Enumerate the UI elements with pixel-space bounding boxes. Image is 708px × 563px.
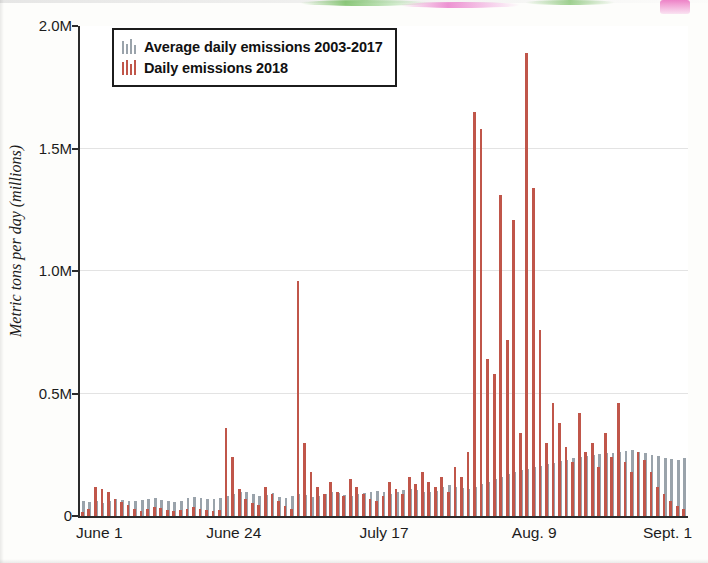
bar-daily-emissions-2018 xyxy=(617,403,620,516)
bar-daily-emissions-2018 xyxy=(643,460,646,516)
bar-daily-emissions-2018 xyxy=(558,423,561,516)
bar-average-daily-emissions xyxy=(683,458,686,516)
bar-daily-emissions-2018 xyxy=(355,487,358,516)
bar-daily-emissions-2018 xyxy=(408,477,411,516)
bar-daily-emissions-2018 xyxy=(532,188,535,516)
bar-daily-emissions-2018 xyxy=(578,413,581,516)
bar-daily-emissions-2018 xyxy=(362,494,365,516)
bar-daily-emissions-2018 xyxy=(336,492,339,517)
gridline xyxy=(80,148,688,149)
bar-daily-emissions-2018 xyxy=(519,433,522,516)
x-tick-label: Sept. 1 xyxy=(643,524,692,542)
bar-daily-emissions-2018 xyxy=(186,509,189,516)
bar-daily-emissions-2018 xyxy=(388,482,391,516)
bar-daily-emissions-2018 xyxy=(290,509,293,516)
y-axis-ticks: 00.5M1.0M1.5M2.0M xyxy=(0,0,72,563)
bar-daily-emissions-2018 xyxy=(87,509,90,516)
x-tick-label: Aug. 9 xyxy=(512,524,557,542)
bar-daily-emissions-2018 xyxy=(663,494,666,516)
bar-daily-emissions-2018 xyxy=(212,511,215,516)
bar-daily-emissions-2018 xyxy=(382,496,385,516)
bar-daily-emissions-2018 xyxy=(297,281,300,516)
bar-daily-emissions-2018 xyxy=(166,510,169,516)
bar-daily-emissions-2018 xyxy=(414,484,417,516)
bar-daily-emissions-2018 xyxy=(597,467,600,516)
page-edge-bottom xyxy=(0,559,708,563)
scan-color-artifact-green xyxy=(300,0,430,6)
bar-daily-emissions-2018 xyxy=(493,374,496,516)
y-tick-label: 2.0M xyxy=(39,17,72,34)
bar-daily-emissions-2018 xyxy=(375,501,378,516)
legend-item-2018: Daily emissions 2018 xyxy=(122,57,383,78)
bar-daily-emissions-2018 xyxy=(271,494,274,516)
bar-daily-emissions-2018 xyxy=(199,509,202,516)
bar-daily-emissions-2018 xyxy=(349,479,352,516)
bar-daily-emissions-2018 xyxy=(146,509,149,516)
bar-daily-emissions-2018 xyxy=(552,403,555,516)
chart-page: Metric tons per day (millions) 00.5M1.0M… xyxy=(0,0,708,563)
scan-edge-artifact xyxy=(0,0,708,3)
bar-daily-emissions-2018 xyxy=(94,487,97,516)
bar-daily-emissions-2018 xyxy=(591,443,594,517)
bar-daily-emissions-2018 xyxy=(159,508,162,516)
bar-daily-emissions-2018 xyxy=(101,489,104,516)
bar-daily-emissions-2018 xyxy=(127,505,130,516)
legend-label-average: Average daily emissions 2003-2017 xyxy=(144,39,383,55)
bar-daily-emissions-2018 xyxy=(454,467,457,516)
bar-daily-emissions-2018 xyxy=(342,496,345,516)
bar-daily-emissions-2018 xyxy=(153,507,156,516)
bar-daily-emissions-2018 xyxy=(565,447,568,516)
scan-color-artifact-magenta xyxy=(400,2,520,8)
bar-daily-emissions-2018 xyxy=(467,452,470,516)
bar-daily-emissions-2018 xyxy=(440,477,443,516)
bar-daily-emissions-2018 xyxy=(179,510,182,516)
bar-daily-emissions-2018 xyxy=(539,330,542,516)
bar-daily-emissions-2018 xyxy=(630,472,633,516)
bar-daily-emissions-2018 xyxy=(120,502,123,516)
bar-daily-emissions-2018 xyxy=(486,359,489,516)
bar-daily-emissions-2018 xyxy=(316,487,319,516)
bar-daily-emissions-2018 xyxy=(264,487,267,516)
bar-daily-emissions-2018 xyxy=(434,487,437,516)
bar-daily-emissions-2018 xyxy=(624,462,627,516)
gridline xyxy=(80,393,688,394)
chart-legend: Average daily emissions 2003-2017 Daily … xyxy=(112,28,397,87)
plot-area xyxy=(80,26,688,516)
bar-daily-emissions-2018 xyxy=(669,501,672,516)
bar-daily-emissions-2018 xyxy=(447,492,450,517)
bar-daily-emissions-2018 xyxy=(303,443,306,517)
bar-daily-emissions-2018 xyxy=(506,340,509,516)
bar-daily-emissions-2018 xyxy=(257,505,260,516)
bar-daily-emissions-2018 xyxy=(604,433,607,516)
bar-daily-emissions-2018 xyxy=(107,492,110,516)
bar-daily-emissions-2018 xyxy=(205,510,208,516)
page-edge-left xyxy=(0,0,4,563)
bar-daily-emissions-2018 xyxy=(231,457,234,516)
bar-daily-emissions-2018 xyxy=(238,489,241,516)
bar-daily-emissions-2018 xyxy=(650,472,653,516)
bar-daily-emissions-2018 xyxy=(401,494,404,516)
bar-daily-emissions-2018 xyxy=(545,443,548,517)
bar-daily-emissions-2018 xyxy=(676,506,679,516)
bar-daily-emissions-2018 xyxy=(218,510,221,516)
y-tick-label: 0.5M xyxy=(39,385,72,402)
bar-daily-emissions-2018 xyxy=(525,53,528,516)
legend-swatch-average-icon xyxy=(122,39,136,54)
x-tick-label: June 24 xyxy=(206,524,261,542)
legend-swatch-2018-icon xyxy=(122,60,136,75)
bar-daily-emissions-2018 xyxy=(656,487,659,516)
bar-daily-emissions-2018 xyxy=(329,482,332,516)
bar-daily-emissions-2018 xyxy=(682,509,685,516)
bar-daily-emissions-2018 xyxy=(421,472,424,516)
legend-item-average: Average daily emissions 2003-2017 xyxy=(122,36,383,57)
bar-daily-emissions-2018 xyxy=(480,129,483,516)
legend-label-2018: Daily emissions 2018 xyxy=(144,60,288,76)
gridline xyxy=(80,270,688,271)
bar-daily-emissions-2018 xyxy=(395,489,398,516)
y-tick-label: 0 xyxy=(64,507,72,524)
scan-color-artifact-pink xyxy=(660,0,690,14)
y-tick-label: 1.0M xyxy=(39,262,72,279)
bar-daily-emissions-2018 xyxy=(140,511,143,516)
y-tick-label: 1.5M xyxy=(39,140,72,157)
bar-daily-emissions-2018 xyxy=(114,499,117,516)
